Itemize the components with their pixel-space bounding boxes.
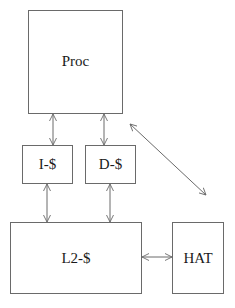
hat-label: HAT [183, 250, 212, 267]
dcache-label: D-$ [99, 156, 122, 173]
proc-box: Proc [28, 10, 123, 114]
icache-box: I-$ [22, 145, 73, 184]
l2cache-box: L2-$ [10, 222, 142, 294]
hat-box: HAT [172, 222, 224, 294]
l2cache-label: L2-$ [61, 250, 90, 267]
icache-label: I-$ [39, 156, 57, 173]
proc-hat-diagonal-arrow [130, 124, 206, 195]
dcache-box: D-$ [85, 145, 136, 184]
proc-label: Proc [62, 53, 90, 70]
